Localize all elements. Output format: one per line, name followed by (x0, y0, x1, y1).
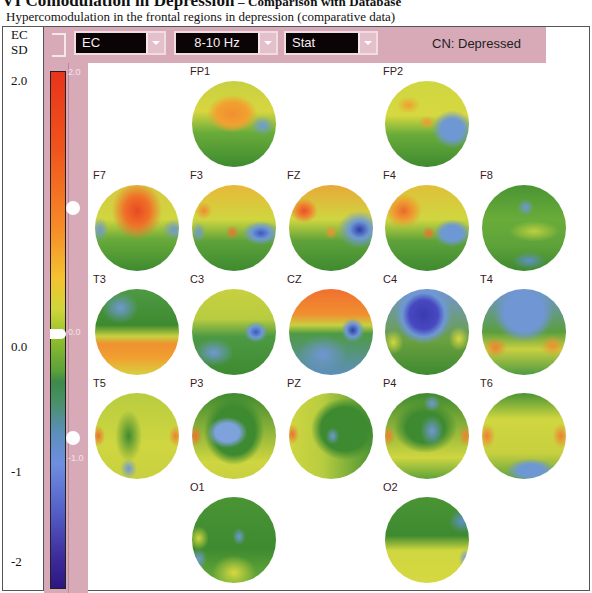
topomap-t3[interactable]: T3 (95, 275, 179, 373)
head-map (95, 393, 179, 479)
topomap-label: F7 (93, 169, 106, 181)
head-map (289, 185, 373, 271)
topomap-label: T3 (93, 273, 106, 285)
topomap-fp2[interactable]: FP2 (385, 67, 469, 165)
topomap-label: PZ (287, 377, 301, 389)
head-map (385, 393, 469, 479)
figure-frame: EC SD 2.0 0.0 -1 -2 EC 8-10 Hz Stat CN: … (2, 26, 590, 591)
chevron-down-icon[interactable] (146, 33, 164, 53)
topomap-label: O1 (190, 481, 205, 493)
topomap-fz[interactable]: FZ (289, 171, 373, 269)
topomap-label: CZ (287, 273, 302, 285)
head-map (192, 81, 276, 167)
head-map (192, 185, 276, 271)
topomap-label: F8 (480, 169, 493, 181)
topomap-label: F4 (383, 169, 396, 181)
topomap-f3[interactable]: F3 (192, 171, 276, 269)
topomap-grid: FP1 FP2 F7 F3 FZ F4 (88, 63, 589, 590)
page-subtitle: Hypercomodulation in the frontal regions… (6, 9, 395, 25)
scale-lower-handle[interactable] (66, 431, 80, 445)
topomap-label: F3 (190, 169, 203, 181)
band-select-value: 8-10 Hz (194, 35, 240, 50)
topomap-label: C3 (190, 273, 204, 285)
chevron-down-icon[interactable] (358, 33, 376, 53)
head-map (385, 185, 469, 271)
topomap-o1[interactable]: O1 (192, 483, 276, 581)
head-map (482, 185, 566, 271)
topomap-t6[interactable]: T6 (482, 379, 566, 477)
scale-tick-2: 2.0 (68, 67, 81, 77)
topomap-label: T6 (480, 377, 493, 389)
topomap-t5[interactable]: T5 (95, 379, 179, 477)
head-map (95, 185, 179, 271)
topomap-label: P3 (190, 377, 203, 389)
topomap-f7[interactable]: F7 (95, 171, 179, 269)
topomap-pz[interactable]: PZ (289, 379, 373, 477)
scale-tick-minus1: -1.0 (68, 453, 84, 463)
topomap-p3[interactable]: P3 (192, 379, 276, 477)
topomap-p4[interactable]: P4 (385, 379, 469, 477)
head-map (289, 289, 373, 375)
condition-select-value: EC (82, 35, 100, 50)
sd-label-column: EC SD 2.0 0.0 -1 -2 (3, 27, 44, 590)
topomap-label: FZ (287, 169, 300, 181)
topomap-panel: EC 8-10 Hz Stat CN: Depressed 2.0 0.0 -1… (44, 27, 589, 590)
topomap-label: P4 (383, 377, 396, 389)
topomap-cz[interactable]: CZ (289, 275, 373, 373)
head-map (385, 289, 469, 375)
head-map (192, 393, 276, 479)
head-map (192, 497, 276, 583)
head-map (482, 289, 566, 375)
title-dash: – (235, 0, 248, 9)
unit-label: SD (11, 42, 28, 58)
sd-label-minus2: -2 (11, 554, 22, 570)
condition-label: EC (11, 27, 28, 43)
head-map (385, 497, 469, 583)
topomap-label: FP1 (190, 65, 210, 77)
band-select[interactable]: 8-10 Hz (174, 31, 278, 55)
head-map (385, 81, 469, 167)
condition-select[interactable]: EC (74, 31, 166, 55)
scale-upper-handle[interactable] (66, 201, 80, 215)
head-map (192, 289, 276, 375)
head-map (95, 289, 179, 375)
topomap-f8[interactable]: F8 (482, 171, 566, 269)
topomap-label: C4 (383, 273, 397, 285)
panel-toggle-icon[interactable] (52, 33, 66, 57)
comparison-label: CN: Depressed (432, 36, 521, 51)
topomap-label: FP2 (383, 65, 403, 77)
topomap-c3[interactable]: C3 (192, 275, 276, 373)
topomap-t4[interactable]: T4 (482, 275, 566, 373)
mode-select-value: Stat (292, 35, 315, 50)
sd-label-0: 0.0 (11, 339, 27, 355)
topomap-label: O2 (383, 481, 398, 493)
scale-tick-0: 0.0 (68, 327, 81, 337)
sd-label-2: 2.0 (11, 73, 27, 89)
head-map (289, 393, 373, 479)
head-map (482, 393, 566, 479)
topomap-label: T5 (93, 377, 106, 389)
toolbar: EC 8-10 Hz Stat CN: Depressed (44, 27, 546, 63)
mode-select[interactable]: Stat (284, 31, 378, 55)
topomap-label: T4 (480, 273, 493, 285)
sd-label-minus1: -1 (11, 464, 22, 480)
chevron-down-icon[interactable] (258, 33, 276, 53)
topomap-fp1[interactable]: FP1 (192, 67, 276, 165)
title-tail: Comparison with Database (248, 0, 401, 9)
topomap-f4[interactable]: F4 (385, 171, 469, 269)
topomap-o2[interactable]: O2 (385, 483, 469, 581)
color-scale-strip: 2.0 0.0 -1.0 (44, 63, 88, 593)
scale-zero-marker (50, 329, 66, 339)
topomap-c4[interactable]: C4 (385, 275, 469, 373)
